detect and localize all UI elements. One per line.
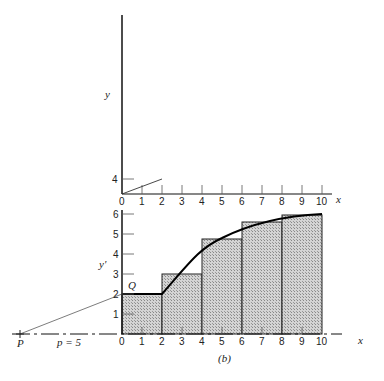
top-x-label: x	[335, 193, 341, 205]
svg-text:9: 9	[299, 196, 305, 207]
svg-text:5: 5	[219, 196, 225, 207]
point-P-label: P	[16, 337, 24, 349]
p-value-label: p = 5	[56, 336, 81, 348]
svg-text:0: 0	[119, 336, 125, 347]
svg-text:2: 2	[159, 196, 165, 207]
top-x-ticks: 0 1 2 3 4 5 6 7 8 9 10	[119, 196, 328, 207]
svg-text:1: 1	[139, 336, 145, 347]
bottom-x-ticks: 0 1 2 3 4 5 6 7 8 9 10	[119, 336, 328, 347]
svg-text:3: 3	[179, 336, 185, 347]
svg-text:10: 10	[316, 336, 328, 347]
bottom-x-label: x	[357, 334, 363, 346]
svg-text:5: 5	[219, 336, 225, 347]
svg-text:2: 2	[113, 289, 119, 300]
svg-text:3: 3	[113, 269, 119, 280]
svg-text:6: 6	[113, 209, 119, 220]
svg-text:6: 6	[239, 336, 245, 347]
svg-text:7: 7	[259, 196, 265, 207]
svg-text:2: 2	[159, 336, 165, 347]
svg-text:7: 7	[259, 336, 265, 347]
bottom-y-label: y'	[98, 258, 107, 270]
bars	[122, 215, 322, 334]
svg-text:5: 5	[113, 229, 119, 240]
svg-text:10: 10	[316, 196, 328, 207]
point-Q-label: Q	[128, 279, 136, 291]
top-y-label: y	[104, 88, 110, 100]
figure-canvas: y 4 x 0 1 2 3 4 5 6 7 8 9 10 1 2	[0, 0, 384, 381]
svg-text:4: 4	[199, 336, 205, 347]
bar-8-10	[282, 215, 322, 334]
svg-text:1: 1	[113, 309, 119, 320]
bar-2-4	[162, 274, 202, 334]
svg-text:0: 0	[119, 196, 125, 207]
top-y-tick-4: 4	[112, 174, 118, 185]
bar-6-8	[242, 222, 282, 334]
figure-caption: (b)	[218, 352, 231, 365]
svg-text:4: 4	[199, 196, 205, 207]
svg-text:8: 8	[279, 336, 285, 347]
svg-text:6: 6	[239, 196, 245, 207]
svg-text:8: 8	[279, 196, 285, 207]
bottom-y-tick-labels: 1 2 3 4 5 6	[113, 209, 119, 320]
svg-text:4: 4	[113, 249, 119, 260]
top-plot	[122, 15, 332, 194]
bar-4-6	[202, 239, 242, 334]
tangent-line	[20, 294, 122, 334]
svg-text:1: 1	[139, 196, 145, 207]
svg-text:3: 3	[179, 196, 185, 207]
svg-text:9: 9	[299, 336, 305, 347]
